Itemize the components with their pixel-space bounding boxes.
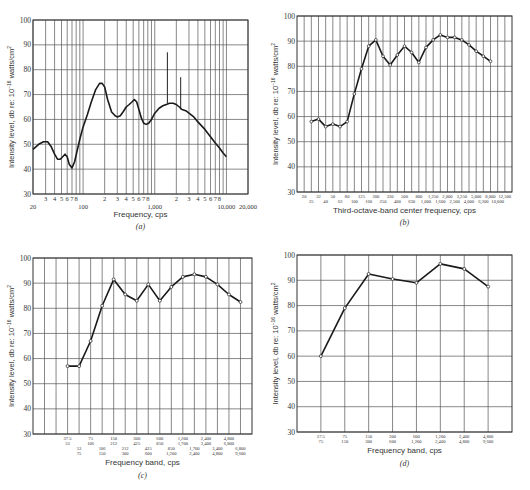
- y-tick-label: 70: [288, 326, 296, 335]
- chart-b: 3040506070809010020253240506380100125160…: [270, 12, 512, 228]
- data-point: [227, 293, 230, 296]
- chart-caption: (d): [400, 459, 410, 468]
- data-point: [353, 93, 356, 96]
- y-tick-label: 90: [24, 279, 32, 288]
- data-point: [181, 275, 184, 278]
- x-axis-label: Frequency band, cps: [105, 458, 180, 467]
- x-tick-label: 32: [316, 194, 321, 199]
- y-tick-label: 50: [24, 140, 32, 149]
- band-high-label: 1,200: [411, 439, 422, 445]
- chart-caption: (b): [400, 218, 410, 227]
- x-minor-tick-label: 2: [175, 195, 178, 202]
- data-point: [147, 283, 150, 286]
- y-tick-label: 80: [288, 301, 296, 310]
- y-tick-label: 50: [288, 137, 296, 146]
- x-tick-label: 100: [78, 203, 88, 210]
- band-high-label: 600: [145, 451, 153, 456]
- band-high-label: 6,800: [224, 441, 235, 447]
- x-minor-tick-label: 4: [125, 195, 129, 202]
- chart-a: 3040506070809010034567823456782345678201…: [6, 16, 257, 232]
- data-point: [319, 355, 322, 358]
- chart-caption: (c): [138, 471, 147, 480]
- band-high-label: 212: [110, 441, 118, 446]
- y-tick-label: 50: [288, 377, 296, 386]
- data-point: [439, 33, 442, 36]
- y-tick-label: 70: [24, 90, 32, 99]
- data-point: [310, 120, 313, 123]
- x-minor-tick-label: 6: [66, 195, 70, 202]
- data-point: [396, 54, 399, 57]
- band-high-label: 1,200: [166, 451, 177, 457]
- y-tick-label: 30: [24, 430, 32, 439]
- x-axis-label: Third-octave-band center frequency, cps: [333, 206, 476, 215]
- y-tick-label: 40: [288, 162, 296, 171]
- y-tick-label: 40: [288, 402, 296, 411]
- x-minor-tick-label: 8: [146, 195, 149, 202]
- data-point: [66, 365, 69, 368]
- data-point: [112, 278, 115, 281]
- x-minor-tick-label: 5: [60, 195, 63, 202]
- x-tick-label: 20: [30, 203, 37, 210]
- band-high-label: 850: [156, 441, 164, 446]
- data-point: [343, 307, 346, 310]
- band-high-label: 9,600: [483, 439, 494, 445]
- data-point: [89, 339, 92, 342]
- data-point: [367, 272, 370, 275]
- band-high-label: 53: [65, 441, 70, 446]
- band-high-label: 4,800: [459, 439, 470, 445]
- band-high-label: 2,400: [435, 439, 446, 445]
- x-minor-tick-label: 3: [116, 195, 119, 202]
- band-high-label: 9,600: [235, 451, 246, 457]
- chart-d: 3040506070809010037.57575150150300300600…: [270, 251, 512, 469]
- x-tick-label: 20: [302, 194, 307, 199]
- y-tick-label: 50: [24, 379, 32, 388]
- data-point: [432, 38, 435, 41]
- chart-caption: (a): [136, 222, 146, 231]
- data-point: [475, 50, 478, 53]
- x-tick-label: 250: [380, 199, 388, 204]
- data-point: [389, 64, 392, 67]
- x-tick-label: 10,000: [217, 203, 235, 210]
- y-tick-label: 80: [24, 304, 32, 313]
- data-point: [382, 55, 385, 58]
- y-tick-label: 100: [284, 12, 296, 21]
- data-point: [403, 45, 406, 48]
- figure-four-spectrum-charts: 3040506070809010034567823456782345678201…: [0, 0, 530, 490]
- band-high-label: 106: [87, 441, 95, 446]
- x-tick-label: 50: [331, 194, 336, 199]
- y-tick-label: 30: [24, 190, 32, 199]
- x-minor-tick-label: 2: [103, 195, 106, 202]
- data-point: [410, 51, 413, 54]
- y-tick-label: 40: [24, 165, 32, 174]
- band-high-label: 4,800: [212, 451, 223, 457]
- data-point: [468, 44, 471, 47]
- x-minor-tick-label: 3: [44, 195, 47, 202]
- band-high-label: 300: [365, 439, 373, 444]
- y-tick-label: 60: [24, 354, 32, 363]
- data-point: [204, 275, 207, 278]
- data-point: [331, 123, 334, 126]
- data-point: [417, 61, 420, 64]
- y-axis-label: Intensity level, db re: 10−16 watts/cm2: [6, 46, 16, 168]
- x-minor-tick-label: 4: [53, 195, 57, 202]
- band-high-label: 150: [99, 451, 107, 456]
- band-high-label: 300: [122, 451, 130, 456]
- data-point: [415, 281, 418, 284]
- x-minor-tick-label: 5: [203, 195, 206, 202]
- y-tick-label: 60: [24, 115, 32, 124]
- y-tick-label: 30: [288, 428, 296, 437]
- x-tick-label: 25: [309, 199, 314, 204]
- data-point: [439, 262, 442, 265]
- band-high-label: 75: [77, 451, 82, 456]
- data-point: [317, 118, 320, 121]
- x-axis-label: Frequency band, cps: [367, 446, 442, 455]
- x-tick-label: 400: [394, 199, 402, 204]
- data-point: [360, 67, 363, 70]
- band-high-label: 425: [133, 441, 141, 446]
- y-axis-label: Intensity level, db re: 10−16 watts/cm2: [270, 282, 280, 404]
- x-tick-label: 80: [345, 194, 350, 199]
- data-point: [101, 304, 104, 307]
- y-tick-label: 90: [24, 40, 32, 49]
- x-tick-label: 1,600: [435, 199, 446, 205]
- band-high-label: 2,400: [189, 451, 200, 457]
